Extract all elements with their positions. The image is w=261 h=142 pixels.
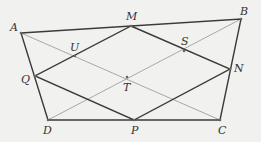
label-D: D xyxy=(42,124,52,137)
geometry-figure: A B M N C P D Q T U S xyxy=(0,0,261,142)
label-S: S xyxy=(181,35,189,48)
vertex-dots xyxy=(20,18,243,122)
label-N: N xyxy=(233,62,244,75)
label-B: B xyxy=(239,5,248,18)
quadrilateral-diagram: A B M N C P D Q T U S xyxy=(0,0,261,142)
label-Q: Q xyxy=(21,73,30,86)
label-C: C xyxy=(218,124,227,137)
label-M: M xyxy=(125,10,138,23)
label-A: A xyxy=(9,21,18,34)
label-U: U xyxy=(70,41,80,54)
label-P: P xyxy=(130,124,139,137)
label-T: T xyxy=(123,81,132,94)
quadrilateral-ABCD xyxy=(21,19,241,120)
diagonal-DB xyxy=(48,19,241,120)
